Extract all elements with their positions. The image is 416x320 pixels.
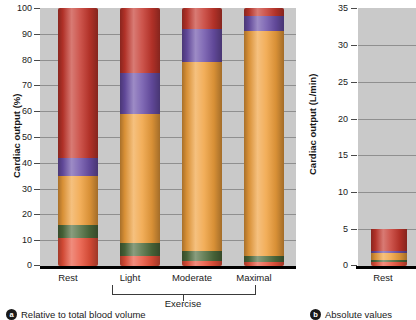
y-tick-label: 5 [324,224,348,234]
bar-light [120,8,160,266]
segment-kidneys [244,256,284,262]
y-tick-label: 25 [324,77,348,87]
x-label-moderate: Moderate [162,272,222,283]
panel-a-x-axis [40,266,296,269]
x-label-light: Light [100,272,160,283]
panel-a-caption-text: Relative to total blood volume [21,309,146,320]
y-tick-label: 30 [8,184,32,194]
segment-skeletal-muscle [182,8,222,29]
segment-other [58,238,98,266]
segment-kidneys [371,260,407,262]
x-label-rest: Rest [38,272,98,283]
exercise-bracket-label: Exercise [153,298,213,309]
segment-skin [120,73,160,114]
y-tick-label: 90 [8,29,32,39]
segment-abdominal-organs [371,253,407,260]
panel-b-x-axis [356,266,416,269]
y-tickmark [351,8,357,9]
bar-moderate [182,8,222,266]
bar-rest-absolute [371,8,407,266]
panel-a-plot-area [40,8,296,266]
segment-skin [182,29,222,63]
y-tick-label: 50 [8,132,32,142]
exercise-bracket [112,285,256,295]
segment-skeletal-muscle [120,8,160,73]
panel-b-caption: bAbsolute values [310,308,392,320]
panel-a-relative: Cardiac output (%) 100 90 80 70 60 50 40… [0,0,300,320]
y-tickmark [351,192,357,193]
segment-skeletal-muscle [244,8,284,16]
panel-a-caption: aRelative to total blood volume [6,308,146,320]
y-tick-label: 70 [8,80,32,90]
segment-abdominal-organs [182,62,222,250]
segment-kidneys [182,251,222,261]
y-tickmark [351,155,357,156]
segment-kidneys [58,225,98,238]
segment-abdominal-organs [120,114,160,243]
panel-b-plot-area [358,8,416,266]
y-tick-label: 100 [8,3,32,13]
segment-other [120,256,160,266]
segment-abdominal-organs [244,31,284,255]
bar-maximal [244,8,284,266]
y-tick-label: 15 [324,150,348,160]
y-tickmark [351,119,357,120]
y-tick-label: 10 [324,187,348,197]
segment-skeletal-muscle [58,8,98,158]
bar-rest [58,8,98,266]
y-tickmark [351,82,357,83]
panel-b-absolute: Cardiac output (L/min) 35 30 25 20 15 10… [300,0,416,320]
y-tick-label: 30 [324,40,348,50]
y-tick-label: 20 [324,114,348,124]
y-tick-label: 10 [8,235,32,245]
y-tickmark [351,229,357,230]
y-tick-label: 20 [8,209,32,219]
panel-b-caption-text: Absolute values [325,309,392,320]
panel-b-badge: b [310,309,321,320]
segment-skin [244,16,284,31]
figure-cardiac-output-distribution: Cardiac output (%) 100 90 80 70 60 50 40… [0,0,416,320]
segment-skin [371,251,407,254]
segment-skin [58,158,98,176]
y-tick-label: 0 [8,260,32,270]
y-tick-label: 40 [8,158,32,168]
x-label-rest: Rest [359,272,407,283]
y-tick-label: 60 [8,106,32,116]
y-tickmark [351,45,357,46]
x-label-maximal: Maximal [224,272,284,283]
segment-abdominal-organs [58,176,98,225]
y-tick-label: 0 [324,260,348,270]
y-tick-label: 80 [8,55,32,65]
y-tick-label: 35 [324,3,348,13]
segment-kidneys [120,243,160,256]
panel-b-y-axis-label: Cardiac output (L/min) [307,74,318,175]
panel-a-badge: a [6,309,17,320]
segment-skeletal-muscle [371,229,407,250]
